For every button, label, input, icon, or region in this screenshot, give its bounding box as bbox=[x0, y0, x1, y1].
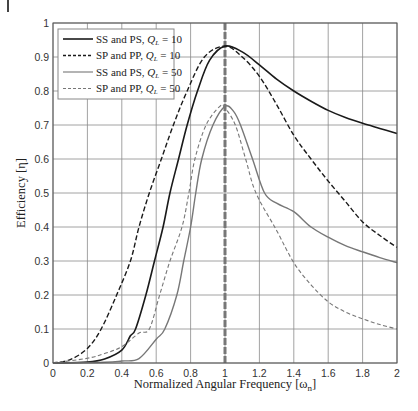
legend-label-main: SP and PP, bbox=[96, 49, 146, 61]
legend-label-main: SP and PP, bbox=[96, 82, 146, 94]
y-tick-label: 1 bbox=[43, 17, 49, 29]
legend-label-main: SS and PS, bbox=[96, 66, 147, 78]
y-tick-label: 0.2 bbox=[34, 289, 49, 301]
legend-label: SP and PP, QL = 10 bbox=[96, 49, 181, 63]
legend-label-value: = 10 bbox=[159, 33, 182, 45]
x-tick-label: 0.4 bbox=[114, 367, 129, 379]
legend-label: SS and PS, QL = 10 bbox=[96, 33, 182, 47]
y-axis-label: Efficiency [η] bbox=[14, 158, 28, 228]
x-tick-label: 0.2 bbox=[80, 367, 95, 379]
x-axis-label-end: ] bbox=[312, 377, 316, 391]
x-axis-label: Normalized Angular Frequency [ωn] bbox=[134, 377, 316, 393]
y-tick-label: 0.8 bbox=[34, 85, 49, 97]
legend-label-main: SS and PS, bbox=[96, 33, 147, 45]
legend: SS and PS, QL = 10SP and PP, QL = 10SS a… bbox=[58, 29, 182, 99]
x-tick-label: 1.6 bbox=[321, 367, 336, 379]
legend-label-q: Q bbox=[146, 82, 154, 94]
y-tick-label: 0.1 bbox=[34, 323, 49, 335]
x-tick-label: 2 bbox=[394, 367, 400, 379]
legend-label: SP and PP, QL = 50 bbox=[96, 82, 181, 96]
legend-label-value: = 10 bbox=[158, 49, 181, 61]
efficiency-chart: 00.20.40.60.811.21.41.61.82 00.10.20.30.… bbox=[0, 0, 418, 411]
y-tick-label: 0 bbox=[43, 357, 49, 369]
y-tick-label: 0.4 bbox=[34, 221, 49, 233]
legend-label-q: Q bbox=[147, 66, 155, 78]
y-tick-label: 0.5 bbox=[34, 187, 49, 199]
legend-label-q: Q bbox=[146, 49, 154, 61]
x-axis-label-main: Normalized Angular Frequency [ω bbox=[134, 377, 308, 391]
y-tick-label: 0.9 bbox=[34, 51, 49, 63]
x-tick-label: 1.8 bbox=[355, 367, 370, 379]
y-tick-label: 0.3 bbox=[34, 255, 49, 267]
legend-label-q: Q bbox=[147, 33, 155, 45]
legend-label-value: = 50 bbox=[158, 82, 181, 94]
y-tick-label: 0.6 bbox=[34, 153, 49, 165]
x-tick-label: 0 bbox=[50, 367, 56, 379]
y-tick-label: 0.7 bbox=[34, 119, 49, 131]
y-tick-labels: 00.10.20.30.40.50.60.70.80.91 bbox=[34, 17, 49, 369]
legend-label-value: = 50 bbox=[159, 66, 182, 78]
legend-label: SS and PS, QL = 50 bbox=[96, 66, 182, 80]
